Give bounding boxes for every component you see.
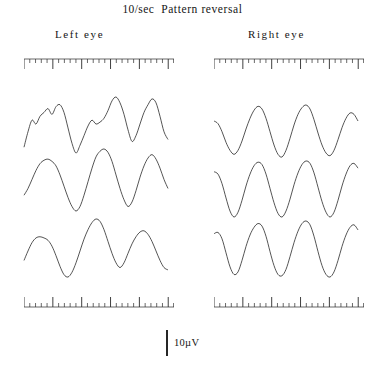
time-ruler-bottom-right — [214, 294, 364, 308]
time-ruler-bottom-left — [24, 294, 174, 308]
panel-left-eye — [24, 58, 174, 308]
title-rate: 10/sec — [122, 3, 154, 15]
column-heading-left-eye: Left eye — [55, 28, 104, 40]
vep-chart-page: 10/sec Pattern reversal Left eye Right e… — [0, 0, 365, 378]
left-trace-2 — [24, 146, 176, 214]
page-title: 10/sec Pattern reversal — [0, 3, 365, 15]
title-condition: Pattern reversal — [161, 3, 242, 15]
right-trace-1 — [214, 102, 365, 160]
right-trace-2 — [214, 158, 365, 220]
calibration-marker: 10µV — [166, 330, 236, 360]
time-ruler-top-right — [214, 58, 364, 72]
panel-right-eye — [214, 58, 364, 308]
left-trace-3 — [24, 216, 176, 280]
time-ruler-top-left — [24, 58, 174, 72]
column-heading-right-eye: Right eye — [248, 28, 305, 40]
right-trace-3 — [214, 218, 365, 280]
calibration-label: 10µV — [174, 337, 199, 348]
calibration-bar-icon — [166, 330, 168, 356]
